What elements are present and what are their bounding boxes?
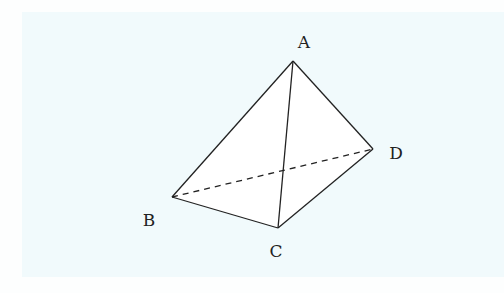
tetrahedron-diagram: A B C D xyxy=(0,0,504,293)
vertex-label-d: D xyxy=(389,143,403,163)
vertex-label-a: A xyxy=(297,32,311,52)
visible-faces xyxy=(172,61,373,228)
vertex-label-b: B xyxy=(143,210,156,230)
vertex-label-c: C xyxy=(269,241,282,261)
